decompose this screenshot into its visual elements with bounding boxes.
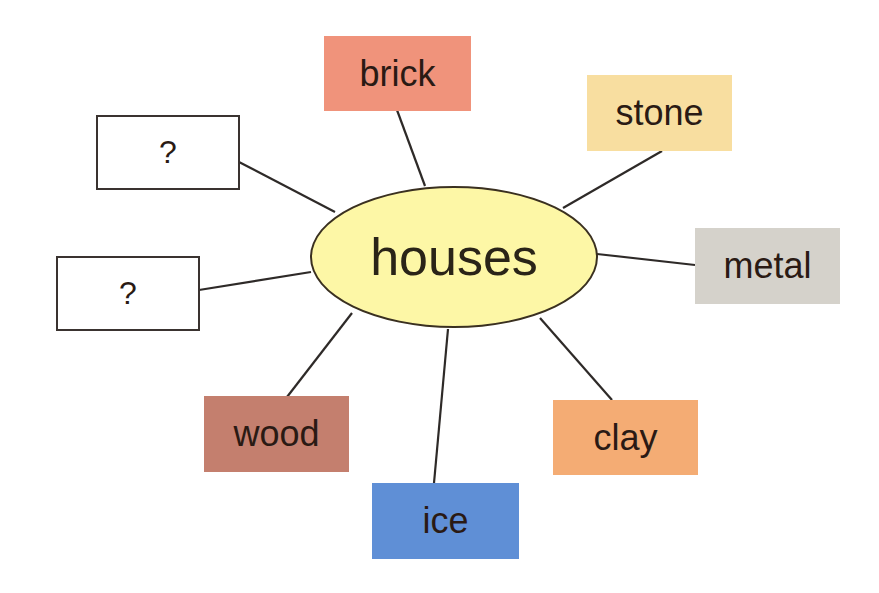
connector-clay (540, 318, 612, 400)
center-label: houses (370, 227, 538, 287)
node-wood: wood (204, 396, 349, 472)
node-label: clay (593, 417, 657, 459)
connector-ice (434, 329, 448, 483)
node-label: stone (615, 92, 703, 134)
node-ice: ice (372, 483, 519, 559)
connector-unknown1 (239, 162, 335, 212)
connector-brick (397, 110, 425, 186)
connector-unknown2 (199, 272, 311, 290)
node-unknown-1: ? (96, 115, 240, 190)
connector-wood (287, 313, 352, 397)
connector-metal (597, 254, 695, 265)
node-unknown-2: ? (56, 256, 200, 331)
node-label: ice (422, 500, 468, 542)
node-label: ? (119, 275, 137, 312)
node-clay: clay (553, 400, 698, 475)
center-node-houses: houses (310, 186, 598, 328)
node-stone: stone (587, 75, 732, 151)
connector-stone (563, 151, 662, 208)
node-label: ? (159, 134, 177, 171)
node-label: wood (233, 413, 319, 455)
node-metal: metal (695, 228, 840, 304)
node-brick: brick (324, 36, 471, 111)
node-label: brick (359, 53, 435, 95)
node-label: metal (723, 245, 811, 287)
